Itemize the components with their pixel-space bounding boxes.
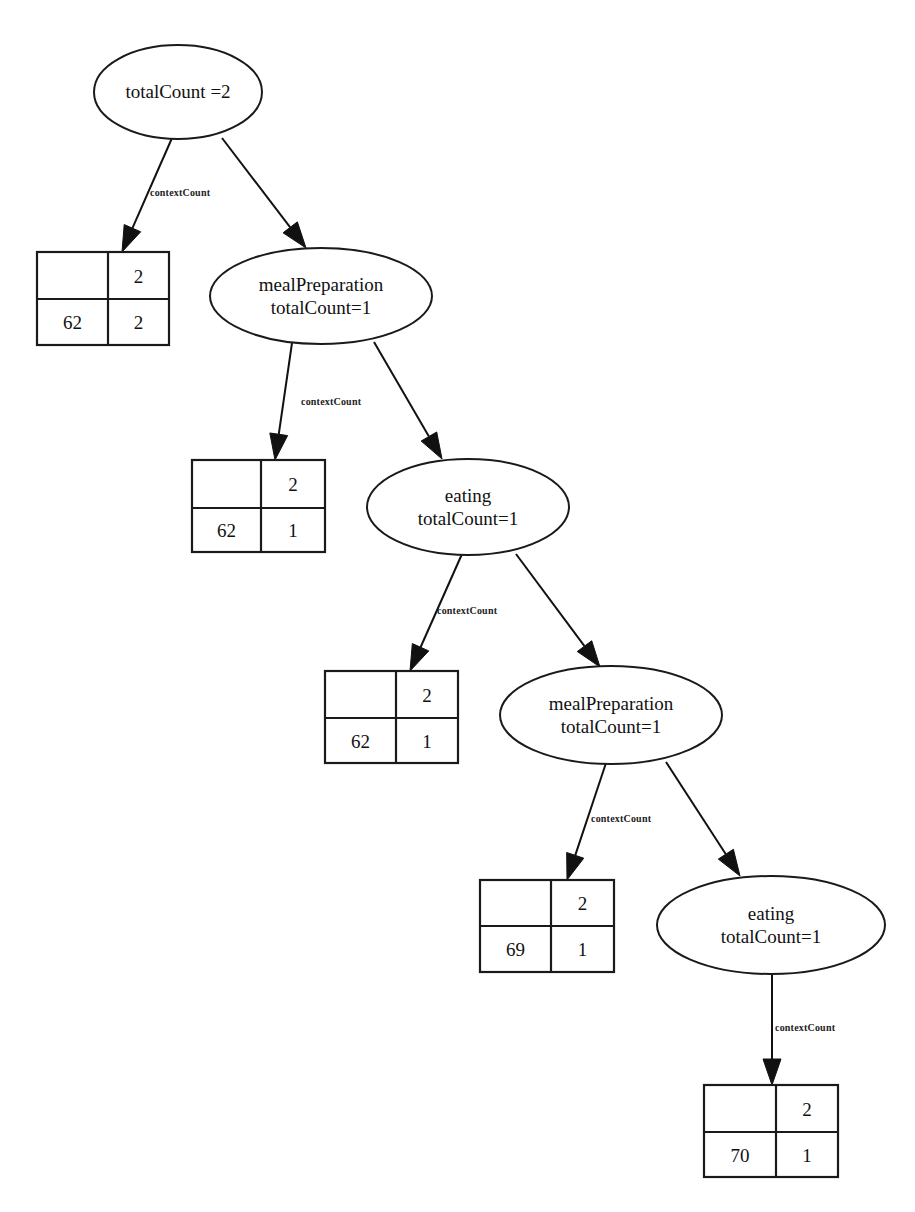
count-table-t0: 2622 [37,252,169,345]
table-cell: 62 [63,312,82,333]
edge-line [421,554,462,647]
edge-line [132,138,172,228]
table-cell: 2 [134,266,144,287]
table-cell: 2 [802,1099,812,1120]
node-label-line: mealPreparation [259,274,384,295]
table-cell: 2 [134,312,144,333]
node-n2: eatingtotalCount=1 [367,459,569,555]
edge-n3-t3: contextCount [567,763,652,880]
arrowhead-icon [283,222,306,248]
edge-line [374,342,429,437]
table-border [192,460,325,552]
arrowhead-icon [567,852,584,880]
edge-n1-n2 [374,342,442,459]
edge-line [222,138,290,227]
arrowhead-icon [577,641,600,667]
edge-label: contextCount [150,187,211,198]
arrowhead-icon [763,1059,781,1085]
node-label-line: totalCount=1 [271,297,371,318]
table-cell: 62 [217,520,236,541]
edge-n1-t1: contextCount [270,343,362,460]
arrowhead-icon [718,849,740,876]
node-label-line: mealPreparation [549,693,674,714]
edge-n2-t2: contextCount [410,554,498,671]
edge-n0-n1 [222,138,306,248]
table-cell: 62 [351,731,370,752]
edge-line [516,554,584,646]
node-label-line: totalCount=1 [721,926,821,947]
table-cell: 2 [288,474,298,495]
table-cell: 2 [422,685,432,706]
count-table-t2: 2621 [325,671,458,763]
table-cell: 2 [578,893,588,914]
arrowhead-icon [421,432,442,459]
edge-n2-n3 [516,554,600,667]
edge-line [575,763,606,855]
table-cell: 70 [731,1145,750,1166]
node-n0: totalCount =2 [94,45,262,139]
edge-line [666,762,726,854]
table-cell: 1 [422,731,432,752]
table-cell: 69 [506,939,525,960]
edge-label: contextCount [775,1022,836,1033]
node-label-line: eating [445,485,492,506]
table-cell: 1 [288,520,298,541]
arrowhead-icon [122,225,141,252]
edge-label: contextCount [591,813,652,824]
node-label-line: totalCount =2 [125,81,230,102]
node-n3: mealPreparationtotalCount=1 [500,666,722,764]
edge-label: contextCount [301,396,362,407]
count-table-t4: 2701 [704,1085,838,1177]
edge-n3-n4 [666,762,740,876]
arrowhead-icon [270,433,288,460]
count-table-t3: 2691 [480,880,614,972]
edge-n4-t4: contextCount [763,974,836,1085]
node-label-line: totalCount=1 [561,716,661,737]
edge-n0-t0: contextCount [122,138,211,252]
tree-diagram: contextCountcontextCountcontextCountcont… [0,0,915,1212]
table-cell: 1 [578,939,588,960]
node-label-line: eating [748,903,795,924]
count-table-t1: 2621 [192,460,325,552]
edge-label: contextCount [437,605,498,616]
node-label-line: totalCount=1 [418,508,518,529]
node-n4: eatingtotalCount=1 [657,876,885,974]
node-n1: mealPreparationtotalCount=1 [210,248,432,344]
arrowhead-icon [410,644,429,671]
table-cell: 1 [802,1145,812,1166]
edge-line [279,343,292,434]
